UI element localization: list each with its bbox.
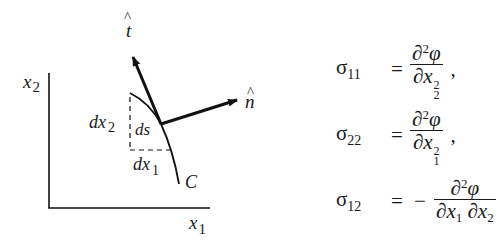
equation-sigma-12: σ12 = − ∂2φ ∂x1 ∂x2: [336, 173, 498, 229]
denominator: ∂x22: [411, 65, 442, 100]
comma: ,: [451, 57, 456, 82]
fraction: ∂2φ ∂x21: [410, 104, 443, 166]
equation-lhs: σ11: [336, 55, 386, 83]
dx1-label: dx1: [133, 154, 159, 178]
tangent-vector: [133, 57, 161, 124]
numerator: ∂2φ: [410, 104, 443, 130]
ds-label: ds: [135, 120, 151, 139]
denominator: ∂x1 ∂x2: [434, 200, 496, 229]
y-axis-label: x2: [22, 71, 40, 95]
dx2-label: dx2: [89, 112, 115, 135]
normal-vector: [161, 100, 237, 124]
tangent-label: ^ t: [124, 9, 132, 41]
fraction: ∂2φ ∂x22: [410, 38, 443, 100]
fraction: ∂2φ ∂x1 ∂x2: [434, 173, 496, 229]
equation-lhs: σ12: [336, 187, 386, 215]
equals-sign: =: [386, 123, 408, 148]
equals-sign: =: [386, 189, 408, 214]
equals-sign: =: [386, 57, 408, 82]
svg-text:n: n: [245, 91, 255, 112]
equation-sigma-22: σ22 = ∂2φ ∂x21 ,: [336, 104, 456, 166]
equation-sigma-11: σ11 = ∂2φ ∂x22 ,: [336, 38, 456, 100]
equation-lhs: σ22: [336, 121, 386, 149]
numerator: ∂2φ: [410, 38, 443, 64]
svg-text:t: t: [126, 20, 132, 41]
comma: ,: [451, 123, 456, 148]
curve-label: C: [185, 172, 198, 192]
normal-label: ^ n: [245, 84, 255, 112]
denominator: ∂x21: [411, 131, 442, 166]
x-axis-label: x1: [188, 212, 206, 237]
minus-sign: −: [408, 189, 432, 214]
numerator: ∂2φ: [449, 173, 482, 199]
boundary-curve-diagram: x2 x1 ^ t ^ n dx2 ds dx1 C: [0, 0, 300, 248]
